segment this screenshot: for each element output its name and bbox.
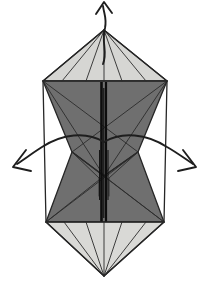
- origami-diagram-svg: [0, 0, 210, 290]
- center-spine: [100, 82, 108, 222]
- figure-root: Origami fold step diagram: [0, 0, 210, 290]
